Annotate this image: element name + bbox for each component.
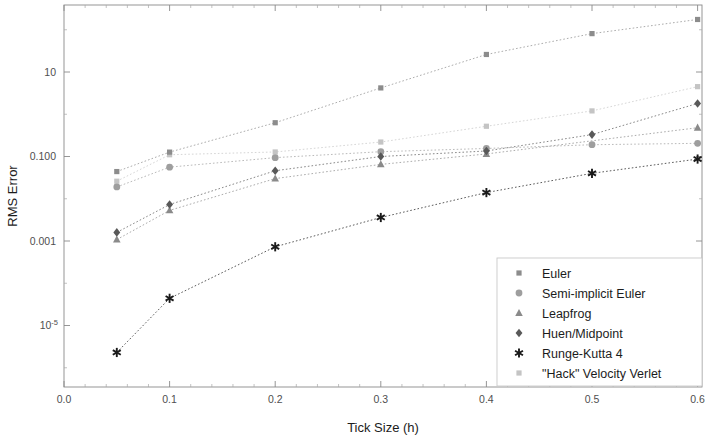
trend-line <box>117 19 698 171</box>
data-marker-diamond <box>589 130 596 139</box>
data-marker-square <box>167 150 172 155</box>
x-tick-label: 0.6 <box>690 393 705 405</box>
y-tick-label: 0.001 <box>30 235 56 247</box>
data-marker-asterisk <box>271 242 279 251</box>
legend-marker-square <box>516 370 521 375</box>
data-marker-square <box>589 31 594 36</box>
legend-marker-square <box>516 270 521 275</box>
data-marker-asterisk <box>482 188 490 197</box>
x-tick-label: 0.0 <box>57 393 72 405</box>
data-marker-diamond <box>272 166 279 175</box>
series-points <box>113 124 701 243</box>
trend-line <box>117 103 698 232</box>
chart-legend: EulerSemi-implicit EulerLeapfrogHuen/Mid… <box>497 258 702 386</box>
legend-item-label: Runge-Kutta 4 <box>542 347 623 361</box>
data-marker-square <box>378 85 383 90</box>
data-marker-triangle <box>377 160 385 167</box>
y-axis-tick-labels: 100.1000.00110-5 <box>30 66 58 332</box>
data-marker-square <box>114 169 119 174</box>
series-points <box>113 99 701 237</box>
legend-marker-circle <box>516 290 523 297</box>
data-marker-square <box>589 108 594 113</box>
legend-item-label: Huen/Midpoint <box>542 327 623 341</box>
x-tick-label: 0.1 <box>162 393 177 405</box>
x-tick-label: 0.4 <box>479 393 494 405</box>
x-tick-label: 0.2 <box>268 393 283 405</box>
data-marker-square <box>484 52 489 57</box>
data-marker-asterisk <box>588 169 596 178</box>
trend-line <box>117 143 698 187</box>
x-axis-tick-labels: 0.00.10.20.30.40.50.6 <box>57 393 705 405</box>
data-marker-square <box>114 179 119 184</box>
trend-line <box>117 87 698 182</box>
data-marker-triangle <box>271 174 279 181</box>
data-marker-circle <box>589 141 596 148</box>
legend-item-label: Leapfrog <box>542 307 591 321</box>
x-tick-label: 0.5 <box>585 393 600 405</box>
data-marker-square <box>273 120 278 125</box>
series-points <box>114 84 700 184</box>
data-marker-circle <box>272 154 279 161</box>
y-axis-title: RMS Error <box>5 165 20 227</box>
y-tick-label: 0.100 <box>30 150 56 162</box>
data-marker-diamond <box>113 228 120 237</box>
series-points <box>114 17 700 174</box>
y-tick-label: 10 <box>44 66 56 78</box>
data-marker-square <box>695 84 700 89</box>
data-marker-triangle <box>694 124 702 131</box>
y-tick-label: 10-5 <box>40 318 58 331</box>
data-marker-asterisk <box>377 213 385 222</box>
data-marker-square <box>484 124 489 129</box>
data-marker-square <box>378 139 383 144</box>
data-marker-square <box>273 149 278 154</box>
trend-line <box>117 128 698 240</box>
x-axis-title: Tick Size (h) <box>347 420 419 435</box>
data-marker-circle <box>113 184 120 191</box>
data-marker-diamond <box>166 200 173 209</box>
x-tick-label: 0.3 <box>373 393 388 405</box>
chart-container: 0.00.10.20.30.40.50.6 100.1000.00110-5 T… <box>0 0 706 440</box>
data-marker-circle <box>166 164 173 171</box>
legend-item-label: Semi-implicit Euler <box>542 287 646 301</box>
data-marker-diamond <box>694 99 701 108</box>
series-points <box>113 140 701 190</box>
rms-error-vs-tick-size-chart: 0.00.10.20.30.40.50.6 100.1000.00110-5 T… <box>0 0 706 440</box>
data-marker-circle <box>694 140 701 147</box>
legend-item-label: Euler <box>542 267 571 281</box>
legend-item-label: "Hack" Velocity Verlet <box>542 367 662 381</box>
data-marker-square <box>695 17 700 22</box>
